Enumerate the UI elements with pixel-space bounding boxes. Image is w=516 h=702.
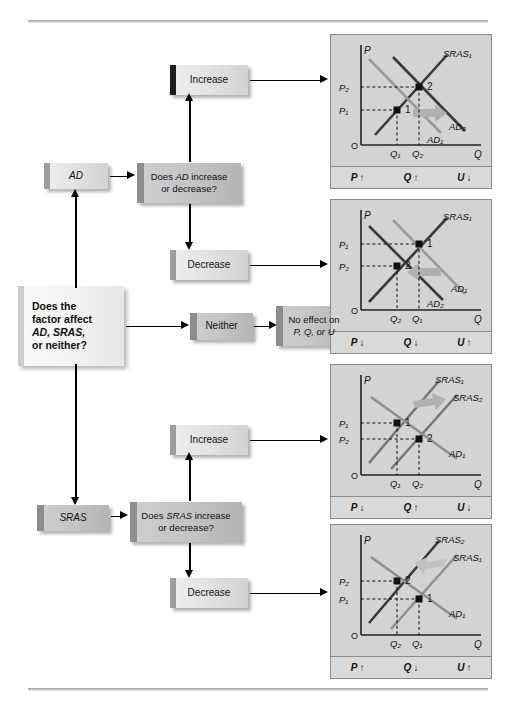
svg-text:Q₂: Q₂ [412, 148, 423, 159]
result-price-3: P ↓ [331, 502, 384, 513]
result-unemployment-1: U ↓ [438, 172, 491, 183]
ad-decrease-results-band: P ↓ Q ↓ U ↑ [331, 331, 491, 353]
svg-text:AD₁: AD₁ [448, 448, 465, 459]
sras-decrease-results-band: P ↑ Q ↓ U ↑ [331, 656, 491, 678]
bottom-divider-rule [28, 688, 488, 691]
svg-text:P₁: P₁ [339, 418, 348, 429]
svg-text:O: O [351, 471, 358, 481]
svg-text:SRAS₂: SRAS₂ [435, 534, 465, 545]
ad-increase-label: Increase [185, 74, 233, 86]
connector-adinc-to-chart [250, 80, 322, 82]
svg-text:Q₁: Q₁ [390, 478, 400, 489]
svg-text:Q: Q [474, 639, 482, 650]
sras-question-line-1: Does SRAS increase [141, 510, 230, 522]
connector-srasdec-to-chart [250, 593, 322, 595]
top-divider-rule [28, 20, 488, 23]
result-quantity-4: Q ↓ [384, 662, 437, 673]
no-effect-line-1: No effect on [288, 314, 339, 326]
connector-ad-to-question [110, 176, 128, 178]
ad-increase-results-band: P ↑ Q ↑ U ↓ [331, 166, 491, 188]
arrowhead-start-to-neither [181, 321, 189, 329]
branch-sras-label: SRAS [54, 512, 91, 524]
svg-text:P₂: P₂ [339, 434, 349, 445]
svg-text:Q: Q [474, 479, 482, 490]
start-line-1: Does the [32, 300, 92, 313]
svg-text:1: 1 [427, 238, 433, 249]
svg-text:AD₂: AD₂ [426, 298, 444, 309]
svg-text:AD₁: AD₁ [426, 134, 443, 145]
svg-text:2: 2 [405, 575, 411, 586]
arrowhead-srasq-to-increase [185, 452, 193, 460]
arrowhead-adq-to-decrease [185, 242, 193, 250]
svg-text:Q₂: Q₂ [390, 638, 401, 649]
svg-text:O: O [351, 141, 358, 151]
svg-text:P: P [364, 535, 371, 546]
sras-decrease-chart: P Q O P₂ P₁ Q₂ Q₁ 2 1 SRAS₂ SRAS₁ AD₁ P … [330, 524, 492, 679]
svg-text:O: O [351, 631, 358, 641]
ad-question-line-2: or decrease? [151, 183, 228, 195]
ad-increase-plot: P Q O P₂ P₁ Q₁ Q₂ 1 2 SRAS₁ AD₂ AD₁ [331, 35, 491, 169]
svg-text:SRAS₁: SRAS₁ [443, 211, 472, 222]
svg-text:2: 2 [405, 260, 411, 271]
svg-text:2: 2 [427, 433, 433, 444]
result-price-1: P ↑ [331, 172, 384, 183]
ad-decrease-box[interactable]: Decrease [170, 250, 248, 280]
svg-text:P: P [364, 45, 371, 56]
start-question-box[interactable]: Does the factor affect AD, SRAS, or neit… [18, 286, 124, 366]
ad-question-line-1: Does AD increase [151, 171, 228, 183]
arrowhead-start-to-ad [71, 189, 79, 197]
svg-text:Q₁: Q₁ [412, 313, 422, 324]
svg-text:Q₁: Q₁ [412, 638, 422, 649]
arrowhead-ad-to-question [127, 171, 135, 179]
ad-increase-box[interactable]: Increase [170, 65, 248, 95]
sras-decrease-label: Decrease [183, 587, 236, 599]
start-line-2: factor affect [32, 313, 92, 326]
svg-text:Q₁: Q₁ [390, 148, 400, 159]
ad-decrease-chart: P Q O P₁ P₂ Q₂ Q₁ 1 2 SRAS₁ AD₁ AD₂ P ↓ … [330, 199, 492, 354]
branch-neither-label: Neither [200, 320, 242, 332]
svg-text:Q₂: Q₂ [412, 478, 423, 489]
arrowhead-addec-to-chart [320, 260, 328, 268]
connector-start-to-neither [126, 326, 182, 328]
arrowhead-srasdec-to-chart [320, 588, 328, 596]
start-line-4: or neither? [32, 339, 92, 352]
connector-start-to-ad [75, 196, 77, 288]
ad-question-box[interactable]: Does AD increase or decrease? [137, 163, 241, 203]
result-unemployment-3: U ↓ [438, 502, 491, 513]
svg-text:AD₂: AD₂ [448, 121, 466, 132]
no-effect-line-2: P, Q, or U [288, 326, 339, 338]
sras-decrease-box[interactable]: Decrease [170, 578, 248, 608]
ad-decrease-plot: P Q O P₁ P₂ Q₂ Q₁ 1 2 SRAS₁ AD₁ AD₂ [331, 200, 491, 334]
connector-srasinc-to-chart [250, 440, 322, 442]
result-quantity-2: Q ↓ [384, 337, 437, 348]
start-line-3: AD, SRAS, [32, 326, 92, 339]
svg-text:P₂: P₂ [339, 576, 349, 587]
branch-ad-label: AD [64, 170, 88, 182]
connector-adq-to-decrease [189, 204, 191, 244]
arrowhead-adinc-to-chart [320, 75, 328, 83]
svg-text:1: 1 [405, 417, 411, 428]
result-unemployment-2: U ↑ [438, 337, 491, 348]
arrowhead-srasq-to-decrease [185, 570, 193, 578]
sras-question-box[interactable]: Does SRAS increase or decrease? [130, 502, 242, 542]
result-price-4: P ↑ [331, 662, 384, 673]
connector-neither-to-noeffect [254, 326, 270, 328]
sras-increase-box[interactable]: Increase [170, 425, 248, 455]
svg-text:AD₁: AD₁ [448, 608, 465, 619]
svg-text:SRAS₂: SRAS₂ [453, 392, 483, 403]
svg-text:SRAS₁: SRAS₁ [453, 552, 482, 563]
branch-sras-box[interactable]: SRAS [37, 505, 109, 531]
svg-text:P: P [364, 210, 371, 221]
result-price-2: P ↓ [331, 337, 384, 348]
branch-neither-box[interactable]: Neither [190, 313, 253, 340]
svg-text:1: 1 [427, 593, 433, 604]
connector-srasq-to-increase [189, 459, 191, 501]
svg-text:P₁: P₁ [339, 239, 348, 250]
sras-increase-plot: P Q O P₁ P₂ Q₁ Q₂ 1 2 SRAS₁ SRAS₂ AD₁ [331, 365, 491, 499]
svg-text:1: 1 [405, 104, 411, 115]
svg-text:P: P [364, 375, 371, 386]
connector-adq-to-increase [189, 100, 191, 162]
arrowhead-start-to-sras [71, 497, 79, 505]
branch-ad-box[interactable]: AD [44, 163, 108, 189]
svg-text:Q: Q [474, 314, 482, 325]
